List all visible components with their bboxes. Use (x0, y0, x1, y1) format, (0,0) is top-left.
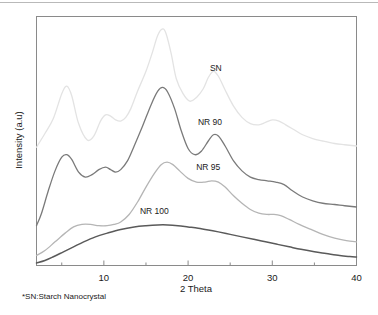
curve-nr-90 (37, 87, 357, 225)
series-label-nr-90: NR 90 (198, 117, 222, 127)
xrd-plot: 10203040 SNNR 90NR 95NR 100 2 Theta Inte… (0, 0, 378, 315)
x-axis-tick-labels: 10203040 (99, 272, 362, 283)
series-label-nr-95: NR 95 (196, 162, 220, 172)
x-axis-ticks (62, 261, 357, 266)
series-label-nr-100: NR 100 (140, 206, 169, 216)
x-tick-label: 10 (99, 272, 110, 283)
series-label-sn: SN (210, 63, 222, 73)
curve-nr-100 (37, 225, 357, 263)
y-axis-title: Intensity (a.u) (13, 111, 24, 169)
series-curves (37, 29, 357, 263)
x-tick-label: 40 (351, 272, 362, 283)
x-tick-label: 20 (183, 272, 194, 283)
curve-sn (37, 29, 357, 147)
xrd-figure: 10203040 SNNR 90NR 95NR 100 2 Theta Inte… (0, 0, 378, 315)
x-tick-label: 30 (267, 272, 278, 283)
series-annotations: SNNR 90NR 95NR 100 (140, 63, 222, 216)
x-axis-title: 2 Theta (180, 283, 213, 294)
footnote: *SN:Starch Nanocrystal (22, 292, 106, 301)
